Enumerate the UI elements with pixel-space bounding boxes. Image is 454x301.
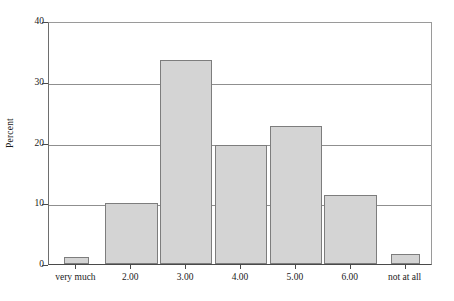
- y-axis-tick-label: 40: [18, 17, 44, 27]
- x-axis-tick-mark: [130, 265, 131, 269]
- bar: [64, 257, 89, 264]
- bars-group: [49, 23, 431, 264]
- x-axis-tick-mark: [405, 265, 406, 269]
- y-axis-tick-label: 30: [18, 78, 44, 88]
- x-axis-tick-label: 4.00: [232, 272, 249, 282]
- x-axis-tick-label: 5.00: [287, 272, 304, 282]
- x-axis-tick-label: 6.00: [341, 272, 358, 282]
- bar: [105, 203, 158, 264]
- x-axis-tick-label: 3.00: [177, 272, 194, 282]
- bar-chart: Percent 010203040 very much2.003.004.005…: [0, 0, 454, 301]
- x-axis-tick-label: very much: [55, 272, 95, 282]
- x-axis-tick-mark: [185, 265, 186, 269]
- y-axis-tick-labels: 010203040: [14, 0, 44, 301]
- x-axis-tick-mark: [350, 265, 351, 269]
- y-axis-tick-label: 0: [18, 260, 44, 270]
- y-axis-tick-label: 20: [18, 139, 44, 149]
- x-axis-tick-mark: [295, 265, 296, 269]
- plot-area: [48, 22, 432, 265]
- bar: [270, 126, 323, 264]
- y-axis-tick-label: 10: [18, 199, 44, 209]
- bar: [324, 195, 377, 264]
- y-axis-tick-mark: [42, 265, 48, 266]
- x-axis-tick-mark: [240, 265, 241, 269]
- bar: [215, 145, 268, 264]
- x-axis-tick-label: not at all: [388, 272, 421, 282]
- bar: [391, 254, 421, 264]
- x-axis-tick-label: 2.00: [122, 272, 139, 282]
- bar: [160, 60, 213, 264]
- x-axis-tick-mark: [75, 265, 76, 269]
